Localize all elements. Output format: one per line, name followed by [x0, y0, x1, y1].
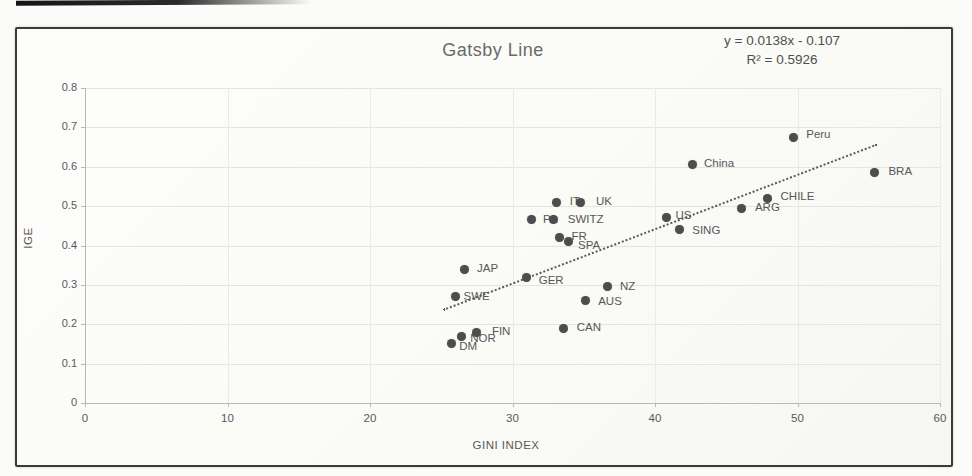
data-point-aus — [581, 296, 590, 305]
x-tick-label: 40 — [639, 412, 671, 424]
gridline-vertical — [513, 88, 514, 403]
data-point-china — [688, 160, 697, 169]
x-axis-tick — [228, 403, 229, 407]
point-label-us: US — [675, 209, 691, 221]
y-axis-tick — [81, 324, 85, 325]
data-point-pa — [527, 215, 536, 224]
data-point-jap — [460, 265, 469, 274]
y-tick-label: 0.4 — [45, 239, 77, 251]
point-label-aus: AUS — [598, 295, 622, 307]
y-axis-line — [85, 88, 86, 403]
y-tick-label: 0.5 — [45, 199, 77, 211]
data-point-fin — [472, 328, 481, 337]
data-point-peru — [789, 133, 798, 142]
y-axis-tick — [81, 246, 85, 247]
point-label-fin: FIN — [492, 325, 511, 337]
data-point-swe — [451, 292, 460, 301]
y-axis-tick — [81, 88, 85, 89]
data-point-sing — [675, 225, 684, 234]
point-label-can: CAN — [577, 321, 601, 333]
x-tick-label: 60 — [924, 412, 956, 424]
gatsby-line-chart: Gatsby Line y = 0.0138x - 0.107 R² = 0.5… — [0, 0, 972, 476]
data-point-nor — [457, 332, 466, 341]
x-tick-label: 10 — [212, 412, 244, 424]
point-label-arg: ARG — [755, 201, 780, 213]
gridline-vertical — [228, 88, 229, 403]
x-axis-tick — [655, 403, 656, 407]
point-label-bra: BRA — [888, 165, 912, 177]
point-label-sing: SING — [692, 224, 720, 236]
x-axis-tick — [798, 403, 799, 407]
y-tick-label: 0.1 — [45, 357, 77, 369]
point-label-china: China — [704, 157, 734, 169]
x-tick-label: 50 — [782, 412, 814, 424]
point-label-nz: NZ — [620, 280, 635, 292]
x-tick-label: 30 — [497, 412, 529, 424]
y-axis-tick — [81, 167, 85, 168]
data-point-bra — [870, 168, 879, 177]
x-axis-tick — [85, 403, 86, 407]
data-point-spa — [564, 237, 573, 246]
point-label-ger: GER — [539, 274, 564, 286]
y-tick-label: 0.7 — [45, 120, 77, 132]
data-point-arg — [737, 204, 746, 213]
y-tick-label: 0.3 — [45, 278, 77, 290]
point-label-chile: CHILE — [781, 190, 815, 202]
y-axis-tick — [81, 127, 85, 128]
point-label-switz: SWITZ — [568, 213, 604, 225]
y-axis-tick — [81, 285, 85, 286]
x-axis-tick — [370, 403, 371, 407]
point-label-spa: SPA — [578, 239, 600, 251]
gridline-vertical — [655, 88, 656, 403]
x-tick-label: 20 — [354, 412, 386, 424]
data-point-dm — [447, 339, 456, 348]
data-point-chile — [763, 194, 772, 203]
data-point-fr — [555, 233, 564, 242]
y-tick-label: 0.2 — [45, 317, 77, 329]
data-point-it — [552, 198, 561, 207]
point-label-uk: UK — [596, 195, 612, 207]
point-label-swe: SWE — [464, 290, 490, 302]
point-label-peru: Peru — [806, 128, 830, 140]
x-axis-tick — [940, 403, 941, 407]
y-tick-label: 0.6 — [45, 160, 77, 172]
y-axis-tick — [81, 364, 85, 365]
x-axis-tick — [513, 403, 514, 407]
data-point-ger — [522, 273, 531, 282]
data-point-nz — [603, 282, 612, 291]
y-axis-tick — [81, 206, 85, 207]
gridline-vertical — [940, 88, 941, 403]
x-tick-label: 0 — [69, 412, 101, 424]
y-axis-tick — [81, 403, 85, 404]
gridline-vertical — [370, 88, 371, 403]
point-label-jap: JAP — [477, 262, 498, 274]
y-tick-label: 0 — [45, 396, 77, 408]
plot-area: 010203040506000.10.20.30.40.50.60.70.8DM… — [0, 0, 972, 476]
y-tick-label: 0.8 — [45, 81, 77, 93]
data-point-us — [662, 213, 671, 222]
data-point-can — [559, 324, 568, 333]
